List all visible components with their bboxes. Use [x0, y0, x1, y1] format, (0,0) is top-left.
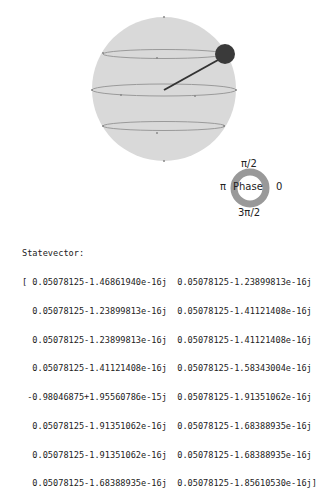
qsphere-plot	[0, 0, 323, 225]
phase-bottom-label: 3π/2	[238, 207, 260, 218]
statevector-label: Statevector:	[22, 249, 317, 259]
phase-top-label: π/2	[241, 158, 257, 169]
statevector-line: 0.05078125-1.91351062e-16j 0.05078125-1.…	[22, 451, 317, 461]
statevector-line: 0.05078125-1.68388935e-16j 0.05078125-1.…	[22, 479, 317, 489]
statevector-line: 0.05078125-1.23899813e-16j 0.05078125-1.…	[22, 307, 317, 317]
state-marker	[215, 44, 235, 64]
statevector-output: Statevector: [ 0.05078125-1.46861940e-16…	[22, 230, 317, 492]
statevector-line: 0.05078125-1.91351062e-16j 0.05078125-1.…	[22, 422, 317, 432]
statevector-line: -0.98046875+1.95560786e-15j 0.05078125-1…	[22, 393, 317, 403]
statevector-line: 0.05078125-1.41121408e-16j 0.05078125-1.…	[22, 364, 317, 374]
statevector-line: [ 0.05078125-1.46861940e-16j 0.05078125-…	[22, 278, 317, 288]
phase-left-label: π	[220, 181, 226, 192]
phase-center-label: Phase	[233, 181, 263, 192]
phase-right-label: 0	[276, 181, 282, 192]
statevector-line: 0.05078125-1.23899813e-16j 0.05078125-1.…	[22, 336, 317, 346]
